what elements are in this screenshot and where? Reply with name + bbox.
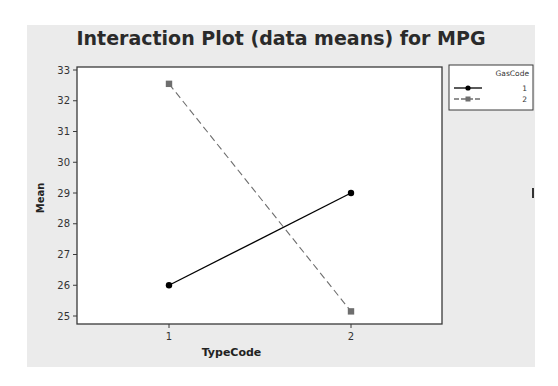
legend-marker-square <box>466 97 471 102</box>
y-tick-label: 26 <box>57 280 70 291</box>
legend-title: GasCode <box>495 69 529 78</box>
y-tick-label: 28 <box>57 218 70 229</box>
data-point-circle <box>166 282 172 288</box>
y-tick-label: 32 <box>57 95 70 106</box>
y-tick-label: 29 <box>57 188 70 199</box>
legend-marker-circle <box>465 85 470 90</box>
plot-area <box>77 67 442 324</box>
data-point-circle <box>348 190 354 196</box>
y-tick-label: 30 <box>57 157 70 168</box>
text-cursor-mark <box>532 188 534 198</box>
y-axis-label: Mean <box>35 183 46 214</box>
interaction-plot: 25262728293031323312TypeCodeMeanGasCode1… <box>0 0 558 386</box>
y-tick-label: 25 <box>57 311 70 322</box>
y-tick-label: 31 <box>57 126 70 137</box>
x-axis-label: TypeCode <box>202 346 262 359</box>
legend-label: 1 <box>522 84 527 93</box>
y-tick-label: 33 <box>57 65 70 76</box>
data-point-square <box>348 308 354 314</box>
data-point-square <box>166 81 172 87</box>
legend-label: 2 <box>522 95 527 104</box>
x-tick-label: 1 <box>166 331 172 342</box>
y-tick-label: 27 <box>57 249 70 260</box>
x-tick-label: 2 <box>348 331 354 342</box>
